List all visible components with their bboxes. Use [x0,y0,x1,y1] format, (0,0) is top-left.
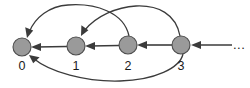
graph-diagram: 0 1 2 3 ... [0,0,250,88]
edge-3-to-0 [29,54,183,81]
node-label-2: 2 [125,59,132,73]
arrow-head-icon [31,43,41,51]
graph-canvas: 0 1 2 3 ... [0,0,250,88]
edge-2-to-0 [25,5,129,38]
arrow-head-icon [25,27,33,38]
edge-3-to-2 [137,41,172,49]
edge-2-to-1 [85,42,119,50]
edge-3-to-1 [81,6,180,36]
arrow-head-icon [191,41,201,49]
node-3[interactable] [172,36,190,54]
node-circle[interactable] [119,36,137,54]
node-0[interactable] [13,38,31,56]
edge-arc [85,6,181,36]
node-circle[interactable] [13,38,31,56]
ellipsis-label: ... [233,37,245,52]
edge-ellipsis-to-3 [191,41,232,49]
arrow-head-icon [137,41,147,49]
edge-arc [34,54,184,81]
node-circle[interactable] [67,37,85,55]
node-1[interactable] [67,37,85,55]
node-label-1: 1 [73,59,80,73]
edge-1-to-0 [31,43,67,51]
node-label-0: 0 [19,59,26,73]
node-2[interactable] [119,36,137,54]
node-label-3: 3 [178,59,185,73]
arrow-head-icon [85,42,95,50]
edge-arc [30,5,130,36]
node-circle[interactable] [172,36,190,54]
